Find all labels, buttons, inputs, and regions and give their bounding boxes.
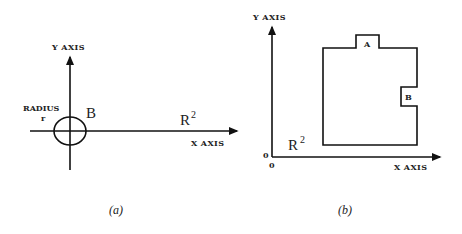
region-b-label: B <box>405 92 412 102</box>
space-label: R <box>288 137 298 153</box>
caption-b: (b) <box>338 203 352 217</box>
radius-label: RADIUS <box>23 103 60 113</box>
space-exponent: 2 <box>300 134 305 145</box>
space-exponent: 2 <box>191 109 196 120</box>
ball-label: B <box>86 105 96 121</box>
region-outline <box>323 35 417 145</box>
radius-symbol: r <box>41 113 46 123</box>
figure: Y AXIS X AXIS RADIUS r B R 2 (a) Y AXIS … <box>0 0 462 234</box>
caption-a: (a) <box>109 203 123 217</box>
origin-y-label: 0 <box>263 150 269 160</box>
y-axis-label: Y AXIS <box>51 42 85 52</box>
origin-x-label: 0 <box>269 160 275 170</box>
y-axis-label: Y AXIS <box>252 12 286 22</box>
x-axis-label: X AXIS <box>394 162 427 172</box>
panel-a: Y AXIS X AXIS RADIUS r B R 2 (a) <box>23 42 237 217</box>
x-axis-label: X AXIS <box>191 138 224 148</box>
panel-b: Y AXIS X AXIS 0 0 R 2 A B (b) <box>252 12 440 217</box>
region-a-label: A <box>363 39 371 49</box>
space-label: R <box>180 112 190 128</box>
